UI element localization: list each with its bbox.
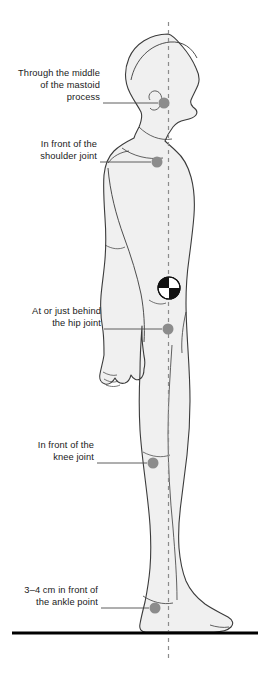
marker-dot-ankle xyxy=(150,603,161,614)
label-knee: In front of the knee joint xyxy=(8,439,94,463)
center-of-gravity-symbol xyxy=(158,277,180,299)
marker-dot-mastoid xyxy=(159,98,170,109)
label-mastoid: Through the middle of the mastoid proces… xyxy=(8,67,100,104)
label-hip: At or just behind the hip joint xyxy=(8,305,101,329)
label-shoulder: In front of the shoulder joint xyxy=(8,138,97,162)
marker-dot-knee xyxy=(148,458,159,469)
label-ankle: 3–4 cm in front of the ankle point xyxy=(8,584,98,608)
marker-dot-hip xyxy=(163,324,174,335)
gravity-line-posture-diagram: Through the middle of the mastoid proces… xyxy=(0,0,269,675)
marker-dot-shoulder xyxy=(152,157,163,168)
